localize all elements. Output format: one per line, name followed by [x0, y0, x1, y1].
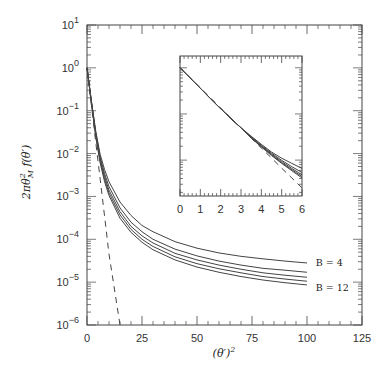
y-tick-label: 10−3: [56, 186, 79, 202]
y-tick-label: 101: [62, 15, 79, 31]
inset-plot: 0123456: [177, 56, 305, 215]
x-tick-label: 125: [353, 332, 371, 344]
x-tick-label: 5: [279, 203, 285, 215]
x-tick-label: 4: [258, 203, 264, 215]
annotation-label: B = 12: [316, 282, 349, 293]
y-tick-label: 10−4: [56, 229, 79, 245]
x-tick-label: 2: [218, 203, 224, 215]
x-tick-label: 0: [84, 332, 90, 344]
y-axis-label: 2πθ2M f(θ′): [18, 145, 35, 200]
chart-figure: 025507510012510−610−510−410−310−210−1100…: [0, 0, 389, 379]
x-tick-label: 25: [136, 332, 148, 344]
x-tick-label: 6: [299, 203, 305, 215]
x-tick-label: 75: [246, 332, 258, 344]
x-tick-label: 3: [238, 203, 244, 215]
x-tick-label: 0: [177, 203, 183, 215]
y-tick-label: 10−2: [56, 144, 79, 160]
annotation-label: B = 4: [316, 257, 343, 268]
x-tick-label: 100: [298, 332, 316, 344]
y-tick-label: 10−6: [56, 315, 79, 331]
x-axis-label: (θ′)2: [213, 345, 236, 360]
y-tick-label: 10−1: [56, 101, 79, 117]
y-tick-label: 10−5: [56, 272, 79, 288]
y-tick-label: 100: [62, 58, 79, 74]
x-tick-label: 1: [197, 203, 203, 215]
x-tick-label: 50: [191, 332, 203, 344]
